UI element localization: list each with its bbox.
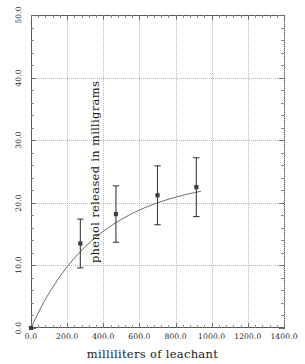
data-marker bbox=[194, 185, 198, 189]
error-bar-point bbox=[77, 219, 83, 268]
data-marker bbox=[114, 212, 118, 216]
error-bar-point bbox=[154, 166, 160, 225]
data-layer bbox=[0, 0, 305, 364]
y-axis-title: phenol released in milligrams bbox=[88, 81, 102, 263]
error-bar-point bbox=[113, 186, 119, 242]
data-marker bbox=[78, 241, 82, 245]
error-bar-point bbox=[193, 158, 199, 217]
x-axis-title: milliliters of leachant bbox=[0, 347, 305, 361]
data-marker bbox=[155, 193, 159, 197]
chart-figure: 0.0200.0400.0600.0800.01000.01200.01400.… bbox=[0, 0, 305, 364]
origin-marker bbox=[29, 326, 33, 330]
